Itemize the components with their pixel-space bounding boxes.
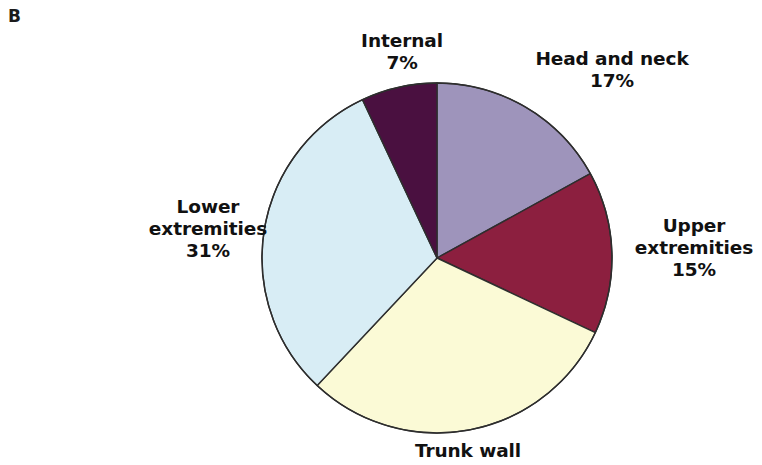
pie-label-lower-extremities-value: 31% [126,240,290,262]
pie-label-trunk-wall: Trunk wall [368,440,568,462]
pie-label-head-and-neck-name: Head and neck [498,48,726,70]
pie-label-lower-extremities-name-line1: Lower [126,196,290,218]
pie-label-upper-extremities-name-line1: Upper [628,215,760,237]
pie-label-head-and-neck-value: 17% [498,70,726,92]
pie-slice-group [262,83,612,433]
pie-label-head-and-neck: Head and neck 17% [498,48,726,92]
pie-label-lower-extremities: Lower extremities 31% [126,196,290,261]
pie-label-upper-extremities: Upper extremities 15% [628,215,760,280]
pie-label-upper-extremities-value: 15% [628,259,760,281]
pie-label-internal-value: 7% [312,52,492,74]
pie-label-trunk-wall-name: Trunk wall [368,440,568,462]
pie-label-lower-extremities-name-line2: extremities [126,218,290,240]
pie-label-internal-name: Internal [312,30,492,52]
pie-label-upper-extremities-name-line2: extremities [628,237,760,259]
figure-panel-b: B Internal 7% Head and neck 17% Upper ex… [0,0,762,465]
pie-label-internal: Internal 7% [312,30,492,74]
